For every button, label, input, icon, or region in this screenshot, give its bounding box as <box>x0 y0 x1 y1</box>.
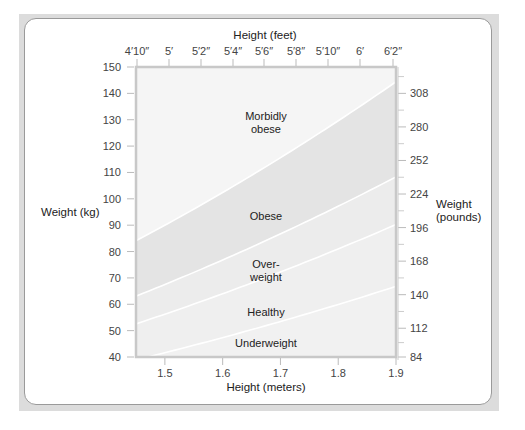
right-axis-title-line1: Weight <box>436 198 472 210</box>
right-tick-label: 280 <box>410 121 428 133</box>
left-tick-label: 60 <box>109 298 121 310</box>
left-axis-title: Weight (kg) <box>41 206 100 218</box>
band-label-obese: Obese <box>250 210 282 222</box>
right-tick-label: 168 <box>410 255 428 267</box>
bottom-tick-label: 1.9 <box>388 367 403 379</box>
band-label-overweight-line1: Over- <box>252 258 280 270</box>
top-tick-label: 5′ <box>165 45 173 57</box>
top-tick-label: 5′10″ <box>316 45 340 57</box>
bottom-tick-label: 1.7 <box>273 367 288 379</box>
right-tick-label: 308 <box>410 87 428 99</box>
top-tick-label: 5′4″ <box>224 45 242 57</box>
left-tick-label: 50 <box>109 325 121 337</box>
right-tick-label: 84 <box>410 351 422 363</box>
top-tick-label: 5′2″ <box>192 45 210 57</box>
left-tick-label: 110 <box>103 166 121 178</box>
right-tick-label: 252 <box>410 154 428 166</box>
bottom-axis: 1.51.61.71.81.9 <box>157 358 403 379</box>
top-axis-title: Height (feet) <box>233 29 296 41</box>
left-tick-label: 90 <box>109 219 121 231</box>
top-tick-label: 6′2″ <box>384 45 402 57</box>
top-tick-label: 5′8″ <box>287 45 305 57</box>
bottom-tick-label: 1.8 <box>331 367 346 379</box>
band-label-underweight: Underweight <box>235 337 297 349</box>
left-tick-label: 40 <box>109 351 121 363</box>
left-tick-label: 150 <box>103 61 121 73</box>
band-label-morbidly-obese-line1: Morbidly <box>245 110 287 122</box>
left-tick-label: 130 <box>103 114 121 126</box>
band-label-healthy: Healthy <box>247 306 285 318</box>
right-tick-label: 140 <box>410 289 428 301</box>
left-tick-label: 70 <box>109 272 121 284</box>
left-tick-label: 100 <box>103 193 121 205</box>
bmi-chart: UnderweightHealthyOver-weightObeseMorbid… <box>0 0 525 430</box>
top-tick-label: 6′ <box>356 45 364 57</box>
left-tick-label: 140 <box>103 87 121 99</box>
band-label-morbidly-obese-line2: obese <box>251 123 281 135</box>
top-tick-label: 4′10″ <box>125 45 149 57</box>
right-axis: 84112140168196224252280308 <box>398 67 428 363</box>
bottom-axis-title: Height (meters) <box>226 381 305 393</box>
band-label-overweight-line2: weight <box>249 271 282 283</box>
bottom-tick-label: 1.5 <box>157 367 172 379</box>
left-axis: 405060708090100110120130140150 <box>103 61 134 363</box>
right-tick-label: 112 <box>410 322 428 334</box>
top-tick-label: 5′6″ <box>255 45 273 57</box>
bottom-tick-label: 1.6 <box>215 367 230 379</box>
right-tick-label: 196 <box>410 222 428 234</box>
right-axis-title-line2: (pounds) <box>436 211 482 223</box>
right-tick-label: 224 <box>410 188 428 200</box>
left-tick-label: 80 <box>109 246 121 258</box>
top-axis: 4′10″5′5′2″5′4″5′6″5′8″5′10″6′6′2″ <box>125 45 402 66</box>
left-tick-label: 120 <box>103 140 121 152</box>
